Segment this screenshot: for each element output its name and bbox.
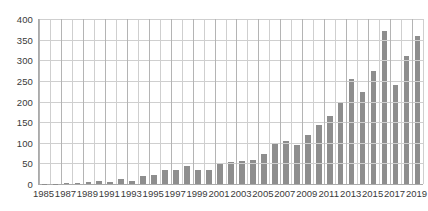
- x-gridline: [423, 19, 424, 184]
- x-gridline: [280, 19, 281, 184]
- bar: [64, 183, 70, 184]
- x-gridline: [215, 19, 216, 184]
- x-gridline: [401, 19, 402, 184]
- bar: [86, 182, 92, 184]
- bar: [327, 116, 333, 184]
- bar: [217, 163, 223, 184]
- x-axis-tick-label: 2003: [230, 188, 251, 199]
- x-gridline: [390, 19, 391, 184]
- bar: [283, 141, 289, 184]
- x-gridline: [313, 19, 314, 184]
- x-axis-tick-label: 1987: [55, 188, 76, 199]
- x-axis-tick-label: 1985: [33, 188, 54, 199]
- x-axis-tick-label: 2019: [406, 188, 427, 199]
- y-axis-tick-label: 400: [17, 14, 33, 25]
- x-gridline: [302, 19, 303, 184]
- x-gridline: [94, 19, 95, 184]
- bar-chart: 050100150200250300350400 198519871989199…: [0, 0, 428, 211]
- bar: [239, 161, 245, 184]
- bar: [195, 170, 201, 184]
- bar: [349, 79, 355, 184]
- bar: [42, 184, 48, 185]
- x-axis-tick-label: 2001: [208, 188, 229, 199]
- x-axis-tick-label: 1991: [99, 188, 120, 199]
- bar: [382, 31, 388, 184]
- bar: [393, 85, 399, 184]
- bar: [184, 166, 190, 184]
- y-axis-tick-label: 300: [17, 55, 33, 66]
- y-gridline: [39, 102, 423, 103]
- x-gridline: [379, 19, 380, 184]
- x-axis-tick-label: 1989: [77, 188, 98, 199]
- x-gridline: [247, 19, 248, 184]
- y-axis-tick-label: 200: [17, 96, 33, 107]
- y-axis-tick-label: 250: [17, 75, 33, 86]
- bar: [173, 170, 179, 184]
- x-gridline: [127, 19, 128, 184]
- x-gridline: [149, 19, 150, 184]
- bar: [316, 125, 322, 184]
- x-gridline: [291, 19, 292, 184]
- bar: [75, 183, 81, 184]
- x-axis-tick-label: 2005: [252, 188, 273, 199]
- bar: [404, 56, 410, 184]
- bar: [107, 182, 113, 184]
- bar: [162, 170, 168, 184]
- x-axis-tick-label: 1997: [165, 188, 186, 199]
- x-gridline: [116, 19, 117, 184]
- x-gridline: [226, 19, 227, 184]
- x-axis-tick-label: 1993: [121, 188, 142, 199]
- x-gridline: [182, 19, 183, 184]
- x-gridline: [412, 19, 413, 184]
- x-axis-tick-label: 2007: [274, 188, 295, 199]
- y-gridline: [39, 163, 423, 164]
- x-gridline: [171, 19, 172, 184]
- x-axis-tick-label: 2013: [340, 188, 361, 199]
- bar: [294, 145, 300, 184]
- y-axis: 050100150200250300350400: [0, 0, 36, 211]
- x-axis: 1985198719891991199319951997199920012003…: [38, 186, 422, 208]
- y-gridline: [39, 143, 423, 144]
- y-gridline: [39, 19, 423, 20]
- y-gridline: [39, 60, 423, 61]
- bar: [261, 154, 267, 184]
- x-gridline: [357, 19, 358, 184]
- x-axis-tick-label: 2009: [296, 188, 317, 199]
- y-axis-tick-label: 350: [17, 34, 33, 45]
- x-gridline: [193, 19, 194, 184]
- x-axis-tick-label: 2017: [384, 188, 405, 199]
- y-axis-tick-label: 50: [22, 158, 33, 169]
- x-axis-tick-label: 2015: [362, 188, 383, 199]
- x-axis-tick-label: 2011: [319, 188, 339, 199]
- x-gridline: [335, 19, 336, 184]
- x-gridline: [105, 19, 106, 184]
- bar: [151, 175, 157, 184]
- x-gridline: [39, 19, 40, 184]
- y-axis-tick-label: 150: [17, 117, 33, 128]
- x-gridline: [61, 19, 62, 184]
- x-gridline: [346, 19, 347, 184]
- x-gridline: [269, 19, 270, 184]
- bar: [371, 71, 377, 184]
- x-gridline: [72, 19, 73, 184]
- x-gridline: [258, 19, 259, 184]
- x-gridline: [204, 19, 205, 184]
- x-gridline: [138, 19, 139, 184]
- x-axis-tick-label: 1995: [143, 188, 164, 199]
- bar: [129, 181, 135, 184]
- x-gridline: [368, 19, 369, 184]
- bar: [140, 176, 146, 184]
- x-gridline: [160, 19, 161, 184]
- x-gridline: [50, 19, 51, 184]
- bar: [53, 184, 59, 185]
- bar: [360, 92, 366, 184]
- y-gridline: [39, 81, 423, 82]
- bar: [415, 36, 421, 184]
- bar: [206, 170, 212, 184]
- plot-area: [38, 19, 423, 185]
- y-axis-tick-label: 100: [17, 137, 33, 148]
- bar: [228, 162, 234, 184]
- y-gridline: [39, 122, 423, 123]
- y-gridline: [39, 40, 423, 41]
- x-gridline: [236, 19, 237, 184]
